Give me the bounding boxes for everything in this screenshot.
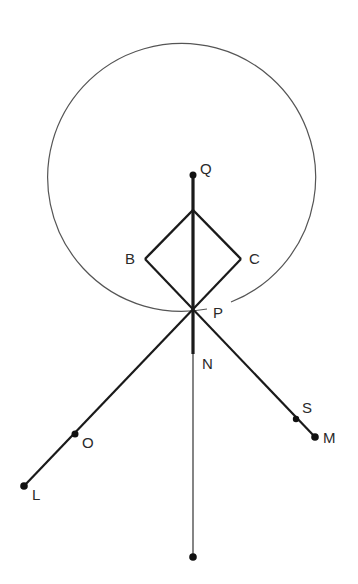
label-p: P [213, 304, 223, 321]
label-m: M [323, 429, 336, 446]
point-m-dot [311, 433, 319, 441]
label-n: N [202, 355, 213, 372]
label-c: C [249, 250, 260, 267]
point-l-dot [20, 482, 28, 490]
segment-top-b [145, 210, 193, 259]
label-q: Q [200, 160, 212, 177]
point-o-dot [72, 431, 79, 438]
label-b: B [125, 250, 135, 267]
geometry-diagram: Q B C P N O L S M [0, 0, 358, 584]
segment-c-l [24, 259, 241, 486]
point-q-dot [190, 172, 197, 179]
label-s: S [302, 399, 312, 416]
segment-b-m [145, 259, 315, 437]
point-s-dot [293, 416, 299, 422]
label-l: L [32, 486, 40, 503]
point-bottom-dot [189, 553, 197, 561]
circle-arc [48, 43, 316, 311]
label-o: O [82, 434, 94, 451]
segment-top-c [193, 210, 241, 259]
